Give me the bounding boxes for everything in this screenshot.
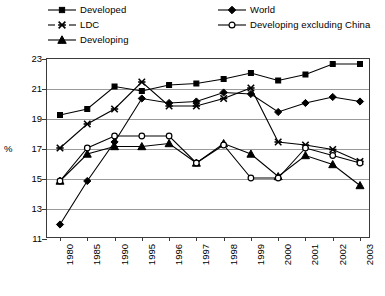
legend-item: Developed xyxy=(48,4,126,16)
marker-cross-x xyxy=(58,22,66,29)
x-axis-tick xyxy=(278,238,279,241)
x-axis-tick-label: 2003 xyxy=(364,244,375,265)
marker-hollow-circle xyxy=(330,153,336,159)
marker-hollow-circle xyxy=(112,133,118,139)
y-axis-tick-label: 17 xyxy=(31,143,42,154)
legend-item-label: Developing xyxy=(80,35,129,45)
marker-filled-diamond xyxy=(329,93,336,100)
marker-cross-x xyxy=(138,79,145,85)
legend-item: Developing excluding China xyxy=(218,19,370,31)
marker-filled-square xyxy=(221,77,226,82)
series-line xyxy=(60,144,360,186)
legend-marker-filled-square-icon xyxy=(48,4,76,16)
marker-filled-square xyxy=(248,71,253,76)
marker-hollow-circle xyxy=(248,175,254,181)
x-axis-tick xyxy=(224,238,225,241)
y-axis-tick-labels: 11131517192123 xyxy=(0,58,42,238)
x-axis-tick xyxy=(251,238,252,241)
series-developed xyxy=(60,64,360,115)
marker-hollow-circle xyxy=(303,145,309,151)
marker-filled-square xyxy=(85,107,90,112)
marker-cross-x xyxy=(84,121,91,127)
marker-filled-diamond xyxy=(56,221,63,228)
series-developing xyxy=(60,144,360,186)
x-axis-tick-labels: 1980198519901995199619971998199920002001… xyxy=(46,240,370,296)
legend-item-label: Developed xyxy=(80,5,126,15)
legend-item-label: World xyxy=(250,5,275,15)
series-container xyxy=(46,58,370,238)
x-axis-tick-label: 2001 xyxy=(309,244,320,265)
chart-legend: DevelopedLDCDevelopingWorldDeveloping ex… xyxy=(0,4,385,50)
x-axis-tick xyxy=(115,238,116,241)
x-axis-tick-label: 1997 xyxy=(200,244,211,265)
marker-cross-x xyxy=(56,145,63,151)
marker-cross-x xyxy=(275,139,282,145)
marker-filled-square xyxy=(112,84,117,89)
legend-marker-filled-diamond-icon xyxy=(218,4,246,16)
marker-filled-square xyxy=(358,62,363,67)
marker-filled-square xyxy=(303,72,308,77)
marker-hollow-circle xyxy=(57,178,63,184)
x-axis-tick xyxy=(60,238,61,241)
marker-hollow-circle xyxy=(139,133,145,139)
x-axis-tick-label: 1995 xyxy=(146,244,157,265)
marker-cross-x xyxy=(329,146,336,152)
marker-filled-diamond xyxy=(111,138,118,145)
marker-cross-x xyxy=(111,106,118,112)
marker-filled-diamond xyxy=(228,6,236,14)
legend-item: World xyxy=(218,4,275,16)
marker-hollow-circle xyxy=(275,175,281,181)
x-axis-tick xyxy=(87,238,88,241)
x-axis-tick xyxy=(360,238,361,241)
marker-hollow-circle xyxy=(166,133,172,139)
x-axis-tick-label: 1985 xyxy=(91,244,102,265)
marker-hollow-circle xyxy=(221,142,227,148)
marker-filled-square xyxy=(139,89,144,94)
x-axis-tick xyxy=(142,238,143,241)
marker-filled-square xyxy=(58,113,63,118)
marker-hollow-circle xyxy=(229,22,235,28)
marker-hollow-circle xyxy=(194,160,200,166)
marker-filled-triangle xyxy=(165,140,173,147)
marker-filled-diamond xyxy=(84,177,91,184)
marker-filled-triangle xyxy=(301,152,309,159)
legend-marker-hollow-circle-icon xyxy=(218,19,246,31)
marker-filled-square xyxy=(276,78,281,83)
marker-hollow-circle xyxy=(84,145,90,151)
x-axis-tick-label: 1999 xyxy=(255,244,266,265)
x-axis-tick xyxy=(196,238,197,241)
x-axis-tick-label: 2002 xyxy=(337,244,348,265)
legend-item-label: LDC xyxy=(80,20,99,30)
x-axis-tick-label: 1990 xyxy=(119,244,130,265)
y-axis-tick-label: 15 xyxy=(31,173,42,184)
x-axis-tick-label: 1998 xyxy=(228,244,239,265)
x-axis-tick-label: 2000 xyxy=(282,244,293,265)
x-axis-tick xyxy=(169,238,170,241)
y-axis-tick-label: 23 xyxy=(31,53,42,64)
y-axis-tick-label: 21 xyxy=(31,83,42,94)
line-chart: DevelopedLDCDevelopingWorldDeveloping ex… xyxy=(0,0,385,296)
x-axis-tick xyxy=(333,238,334,241)
marker-filled-diamond xyxy=(138,95,145,102)
legend-marker-cross-x-icon xyxy=(48,19,76,31)
marker-filled-square xyxy=(167,83,172,88)
series-line xyxy=(60,64,360,115)
legend-item: Developing xyxy=(48,34,129,46)
marker-filled-diamond xyxy=(275,108,282,115)
x-axis-tick-label: 1996 xyxy=(173,244,184,265)
x-axis-tick-label: 1980 xyxy=(64,244,75,265)
y-axis-tick-label: 19 xyxy=(31,113,42,124)
marker-filled-square xyxy=(330,62,335,67)
y-axis-tick-label: 13 xyxy=(31,203,42,214)
marker-filled-square xyxy=(194,81,199,86)
marker-filled-diamond xyxy=(302,99,309,106)
x-axis-tick xyxy=(305,238,306,241)
marker-filled-square xyxy=(59,7,64,12)
legend-marker-filled-triangle-icon xyxy=(48,34,76,46)
marker-hollow-circle xyxy=(357,160,363,166)
legend-item-label: Developing excluding China xyxy=(250,20,370,30)
marker-filled-triangle xyxy=(356,182,364,189)
y-axis-tick-label: 11 xyxy=(32,233,42,244)
marker-filled-triangle xyxy=(247,150,255,157)
marker-filled-diamond xyxy=(356,98,363,105)
